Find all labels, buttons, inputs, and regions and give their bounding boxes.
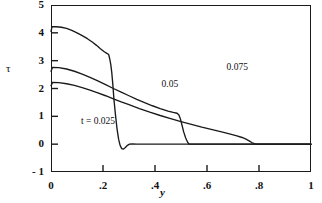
x-tick-label: .4 — [142, 180, 168, 191]
curve-series-1 — [51, 67, 311, 144]
y-tick-label: 1 — [22, 110, 44, 121]
label-0075: 0.075 — [227, 62, 248, 72]
x-tick-label: .8 — [246, 180, 272, 191]
curves-layer — [0, 0, 322, 203]
label-005: 0.05 — [162, 79, 179, 89]
label-t-0025: t = 0.025 — [81, 116, 115, 126]
y-tick-label: 5 — [22, 0, 44, 10]
y-tick-label: 3 — [22, 55, 44, 66]
y-tick-label: 4 — [22, 27, 44, 38]
x-tick-label: 0 — [38, 180, 64, 191]
x-tick-label: 1 — [298, 180, 322, 191]
x-tick-label: .6 — [194, 180, 220, 191]
y-tick-label: - 1 — [22, 166, 44, 177]
figure-chart: τ y 543210- 1 0.2.4.6.81 t = 0.0250.050.… — [0, 0, 322, 203]
curve-series-2 — [51, 82, 311, 144]
y-axis-label: τ — [6, 62, 10, 74]
x-tick-label: .2 — [90, 180, 116, 191]
curve-series-0 — [51, 27, 311, 149]
y-tick-label: 2 — [22, 83, 44, 94]
y-tick-label: 0 — [22, 138, 44, 149]
